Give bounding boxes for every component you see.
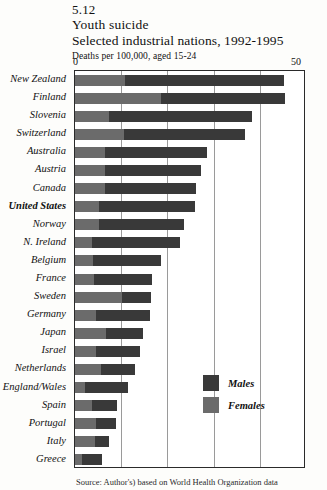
category-label-germany: Germany bbox=[27, 305, 66, 323]
bar-row bbox=[75, 234, 180, 252]
category-label-norway: Norway bbox=[33, 215, 66, 233]
category-label-greece: Greece bbox=[36, 450, 66, 468]
bar-segment-males bbox=[93, 255, 160, 266]
category-labels: New ZealandFinlandSloveniaSwitzerlandAus… bbox=[0, 70, 70, 468]
bar-segment-males bbox=[125, 75, 284, 86]
figure-page: 5.12 Youth suicide Selected industrial n… bbox=[0, 0, 327, 490]
axis-max-label: 50 bbox=[291, 56, 301, 67]
bar-segment-females bbox=[75, 400, 92, 411]
bar-row bbox=[75, 415, 116, 433]
category-label-slovenia: Slovenia bbox=[30, 106, 66, 124]
stacked-bar bbox=[75, 418, 116, 429]
bar-row bbox=[75, 324, 143, 342]
bar-row bbox=[75, 71, 284, 89]
category-label-sweden: Sweden bbox=[34, 287, 66, 305]
bar-segment-females bbox=[75, 382, 85, 393]
bar-row bbox=[75, 306, 150, 324]
bar-segment-males bbox=[99, 219, 185, 230]
figure-header: 5.12 Youth suicide Selected industrial n… bbox=[72, 2, 322, 63]
figure-units-note: Deaths per 100,000, aged 15-24 bbox=[72, 50, 322, 63]
bar-row bbox=[75, 180, 196, 198]
legend-item-females: Females bbox=[203, 394, 295, 416]
bar-segment-females bbox=[75, 93, 161, 104]
stacked-bar bbox=[75, 255, 161, 266]
bar-row bbox=[75, 143, 207, 161]
category-label-england-wales: England/Wales bbox=[3, 378, 66, 396]
bar-segment-males bbox=[96, 346, 139, 357]
stacked-bar bbox=[75, 237, 180, 248]
bar-segment-males bbox=[92, 400, 118, 411]
stacked-bar bbox=[75, 219, 184, 230]
bar-row bbox=[75, 451, 102, 469]
bar-row bbox=[75, 270, 152, 288]
bar-segment-males bbox=[161, 93, 284, 104]
legend-swatch-males-icon bbox=[203, 375, 219, 391]
stacked-bar bbox=[75, 364, 135, 375]
stacked-bar bbox=[75, 382, 128, 393]
bar-row bbox=[75, 360, 135, 378]
stacked-bar bbox=[75, 129, 245, 140]
bar-segment-females bbox=[75, 147, 105, 158]
category-label-portugal: Portugal bbox=[29, 414, 66, 432]
bar-row bbox=[75, 125, 245, 143]
bar-row bbox=[75, 288, 151, 306]
stacked-bar bbox=[75, 183, 196, 194]
stacked-bar bbox=[75, 400, 117, 411]
bar-segment-males bbox=[122, 292, 151, 303]
bar-segment-females bbox=[75, 165, 105, 176]
bar-row bbox=[75, 397, 117, 415]
bar-segment-males bbox=[109, 111, 252, 122]
bar-segment-females bbox=[75, 418, 96, 429]
source-note: Source: Author's) based on World Health … bbox=[76, 477, 321, 488]
bar-segment-females bbox=[75, 111, 109, 122]
bar-row bbox=[75, 107, 252, 125]
bar-segment-females bbox=[75, 454, 82, 465]
category-label-finland: Finland bbox=[33, 88, 66, 106]
bar-row bbox=[75, 379, 128, 397]
bar-segment-males bbox=[124, 129, 245, 140]
bar-segment-females bbox=[75, 237, 92, 248]
legend-label-males: Males bbox=[228, 378, 254, 389]
bar-segment-females bbox=[75, 201, 99, 212]
figure-number: 5.12 bbox=[72, 2, 322, 17]
bar-segment-females bbox=[75, 364, 101, 375]
bar-row bbox=[75, 89, 285, 107]
bar-segment-females bbox=[75, 292, 122, 303]
stacked-bar bbox=[75, 93, 285, 104]
category-label-switzerland: Switzerland bbox=[16, 124, 66, 142]
bar-row bbox=[75, 198, 195, 216]
stacked-bar bbox=[75, 346, 140, 357]
category-label-canada: Canada bbox=[33, 179, 66, 197]
bar-row bbox=[75, 252, 161, 270]
bar-segment-females bbox=[75, 129, 124, 140]
stacked-bar bbox=[75, 75, 284, 86]
legend-item-males: Males bbox=[203, 372, 295, 394]
stacked-bar bbox=[75, 147, 207, 158]
category-label-italy: Italy bbox=[47, 432, 66, 450]
category-label-new-zealand: New Zealand bbox=[10, 70, 66, 88]
bar-segment-males bbox=[99, 201, 195, 212]
category-label-belgium: Belgium bbox=[31, 251, 66, 269]
category-label-n-ireland: N. Ireland bbox=[23, 233, 66, 251]
category-label-france: France bbox=[36, 269, 66, 287]
stacked-bar bbox=[75, 454, 102, 465]
category-label-spain: Spain bbox=[42, 396, 66, 414]
stacked-bar bbox=[75, 310, 150, 321]
category-label-netherlands: Netherlands bbox=[15, 359, 66, 377]
stacked-bar bbox=[75, 274, 152, 285]
figure-title: Youth suicide bbox=[72, 17, 322, 33]
stacked-bar bbox=[75, 165, 201, 176]
stacked-bar bbox=[75, 328, 143, 339]
bar-row bbox=[75, 161, 201, 179]
bar-segment-males bbox=[105, 165, 200, 176]
bar-segment-females bbox=[75, 328, 106, 339]
stacked-bar bbox=[75, 436, 109, 447]
figure-subtitle: Selected industrial nations, 1992-1995 bbox=[72, 33, 322, 49]
bar-segment-males bbox=[101, 364, 134, 375]
bar-segment-females bbox=[75, 219, 99, 230]
bar-segment-males bbox=[82, 454, 102, 465]
bar-segment-females bbox=[75, 310, 96, 321]
bar-segment-males bbox=[105, 147, 207, 158]
bar-segment-males bbox=[96, 418, 116, 429]
bar-row bbox=[75, 216, 184, 234]
